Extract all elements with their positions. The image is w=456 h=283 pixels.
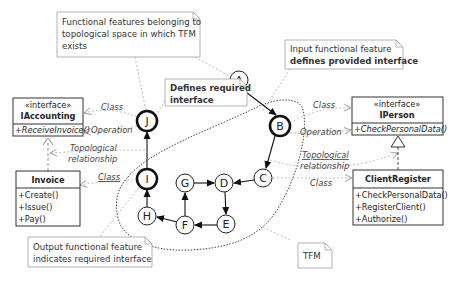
svg-text:ClientRegister: ClientRegister xyxy=(365,174,432,184)
node-e[interactable]: E xyxy=(217,215,235,233)
node-d[interactable]: D xyxy=(215,174,233,192)
svg-text:Invoice: Invoice xyxy=(31,175,64,185)
node-b[interactable]: B xyxy=(270,116,290,136)
svg-text:exists: exists xyxy=(62,41,87,51)
svg-text:+Pay(): +Pay() xyxy=(18,214,46,224)
svg-text:B: B xyxy=(276,120,284,133)
svg-text:Defines required: Defines required xyxy=(170,83,251,93)
note-topological-space: Functional features belonging to topolog… xyxy=(57,12,201,57)
relationship-labels: Class Operation Topological relationship… xyxy=(68,100,349,188)
svg-text:Input functional feature: Input functional feature xyxy=(290,44,392,54)
graph-edges xyxy=(147,89,276,225)
svg-text:I: I xyxy=(145,173,148,186)
class-iaccounting[interactable]: «interface» IAccounting +ReceiveInvoice(… xyxy=(13,98,90,136)
svg-text:Output functional feature: Output functional feature xyxy=(33,242,142,252)
label-class-right-bottom: Class xyxy=(310,178,333,188)
note-output-feature: Output functional feature indicates requ… xyxy=(28,237,152,267)
tfm-diagram: A B C D E F G H I J Functional features … xyxy=(0,0,456,283)
svg-text:IPerson: IPerson xyxy=(380,110,415,120)
label-topological-right-1: Topological xyxy=(302,150,349,160)
generalization-arrowhead xyxy=(391,136,405,147)
label-class-left-bottom: Class xyxy=(98,172,121,182)
label-class-left-top: Class xyxy=(101,102,124,112)
label-operation-right: Operation xyxy=(300,127,342,137)
note-input-feature: Input functional feature defines provide… xyxy=(285,40,418,69)
class-clientregister[interactable]: ClientRegister +CheckPersonalData() +Reg… xyxy=(353,170,448,225)
svg-text:+Authorize(): +Authorize() xyxy=(355,214,407,224)
svg-text:+RegisterClient(): +RegisterClient() xyxy=(355,202,426,212)
svg-text:+ReceiveInvoice(): +ReceiveInvoice() xyxy=(15,125,90,135)
svg-text:J: J xyxy=(144,115,148,128)
svg-text:H: H xyxy=(143,210,151,223)
svg-text:defines provided interface: defines provided interface xyxy=(290,56,418,66)
node-g[interactable]: G xyxy=(176,174,194,192)
svg-text:E: E xyxy=(223,218,230,231)
svg-text:C: C xyxy=(259,172,267,185)
svg-text:+Create(): +Create() xyxy=(18,190,58,200)
note-tfm: TFM xyxy=(298,243,332,268)
label-class-right-top: Class xyxy=(313,100,336,110)
label-topological-left-1: Topological xyxy=(70,143,117,153)
svg-text:G: G xyxy=(181,177,190,190)
svg-text:indicates required interface: indicates required interface xyxy=(33,254,152,264)
svg-text:TFM: TFM xyxy=(302,251,321,261)
node-f[interactable]: F xyxy=(176,216,194,234)
label-operation-left: Operation xyxy=(91,125,133,135)
svg-text:D: D xyxy=(220,177,228,190)
svg-text:+CheckPersonalData(): +CheckPersonalData() xyxy=(354,124,447,134)
svg-text:IAccounting: IAccounting xyxy=(21,111,76,121)
svg-text:interface: interface xyxy=(170,95,214,105)
class-iperson[interactable]: «interface» IPerson +CheckPersonalData() xyxy=(352,97,447,135)
svg-text:topological space in which TFM: topological space in which TFM xyxy=(62,29,196,39)
node-c[interactable]: C xyxy=(254,169,272,187)
svg-text:Functional features belonging: Functional features belonging to xyxy=(62,17,201,27)
svg-text:+CheckPersonalData(): +CheckPersonalData() xyxy=(355,190,448,200)
note-defines-required: Defines required interface xyxy=(165,79,251,106)
svg-text:«interface»: «interface» xyxy=(25,100,72,110)
node-h[interactable]: H xyxy=(138,207,156,225)
node-j[interactable]: J xyxy=(137,111,157,131)
label-topological-left-2: relationship xyxy=(68,154,117,164)
svg-text:+Issue(): +Issue() xyxy=(18,202,52,212)
svg-text:«interface»: «interface» xyxy=(374,99,421,109)
label-topological-right-2: relationship xyxy=(300,161,349,171)
class-invoice[interactable]: Invoice +Create() +Issue() +Pay() xyxy=(16,171,80,226)
node-i[interactable]: I xyxy=(137,169,157,189)
svg-text:F: F xyxy=(182,219,188,232)
